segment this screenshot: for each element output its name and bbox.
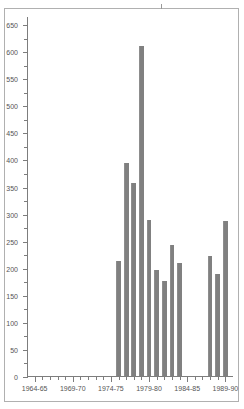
x-axis-minor-tick (141, 377, 142, 380)
x-axis-minor-tick (42, 377, 43, 380)
y-axis-minor-tick (24, 93, 28, 94)
x-axis-minor-tick (88, 377, 89, 380)
bar (124, 163, 129, 376)
y-axis-tick-label: 350 (6, 184, 18, 191)
x-axis-tick (35, 377, 36, 382)
x-axis-minor-tick (65, 377, 66, 380)
x-axis-minor-tick (126, 377, 127, 380)
y-axis-minor-tick (24, 120, 28, 121)
y-axis-minor-tick (24, 201, 28, 202)
chart-figure: 050100150200250300350400450500550600650 … (0, 0, 244, 409)
x-axis-tick-label: 1964-65 (22, 385, 48, 392)
y-axis-minor-tick (24, 336, 28, 337)
x-axis-minor-tick (96, 377, 97, 380)
y-axis-tick-label: 200 (6, 265, 18, 272)
x-axis-minor-tick (164, 377, 165, 380)
bar (177, 263, 182, 376)
y-axis-tick: 250 (23, 242, 28, 243)
top-edge-tick (161, 4, 162, 9)
x-axis-tick (111, 377, 112, 382)
y-axis-minor-tick (24, 147, 28, 148)
y-axis-tick-label: 500 (6, 103, 18, 110)
y-axis-tick: 450 (23, 133, 28, 134)
y-axis-tick: 550 (23, 79, 28, 80)
bar (131, 183, 136, 376)
y-axis-tick-label: 50 (10, 346, 18, 353)
y-axis-tick: 650 (23, 25, 28, 26)
x-axis-minor-tick (195, 377, 196, 380)
x-axis-minor-tick (202, 377, 203, 380)
x-axis-minor-tick (103, 377, 104, 380)
x-axis-tick-label: 1979-80 (136, 385, 162, 392)
x-axis-tick-label: 1974-75 (98, 385, 124, 392)
y-axis-tick: 600 (23, 52, 28, 53)
y-axis-tick: 150 (23, 296, 28, 297)
y-axis-tick: 350 (23, 188, 28, 189)
y-axis-minor-tick (24, 282, 28, 283)
y-axis-tick-label: 400 (6, 157, 18, 164)
y-axis-tick-label: 600 (6, 49, 18, 56)
bar (116, 261, 121, 376)
y-axis-tick: 100 (23, 323, 28, 324)
bar (223, 221, 228, 376)
y-axis-tick-label: 150 (6, 292, 18, 299)
y-axis-tick-label: 550 (6, 76, 18, 83)
y-axis-tick: 300 (23, 215, 28, 216)
bar (139, 46, 144, 376)
y-axis-tick-label: 450 (6, 130, 18, 137)
x-axis-tick-label: 1989-90 (213, 385, 239, 392)
bar (208, 256, 213, 376)
y-axis-minor-tick (24, 66, 28, 67)
bar (215, 274, 220, 376)
bar (154, 270, 159, 376)
y-axis-minor-tick (24, 309, 28, 310)
bar (170, 245, 175, 376)
x-axis-tick (73, 377, 74, 382)
x-axis-minor-tick (134, 377, 135, 380)
y-axis-tick: 200 (23, 269, 28, 270)
x-axis-tick (187, 377, 188, 382)
x-axis-minor-tick (58, 377, 59, 380)
x-axis-minor-tick (218, 377, 219, 380)
plot-area: 050100150200250300350400450500550600650 … (27, 17, 233, 377)
y-axis-minor-tick (24, 363, 28, 364)
x-axis-tick-label: 1984-85 (174, 385, 200, 392)
y-axis-tick: 400 (23, 160, 28, 161)
y-axis-tick: 500 (23, 106, 28, 107)
y-axis-minor-tick (24, 255, 28, 256)
x-axis-minor-tick (172, 377, 173, 380)
bar (162, 281, 167, 376)
x-axis-tick-label: 1969-70 (60, 385, 86, 392)
x-axis-minor-tick (157, 377, 158, 380)
y-axis-tick-label: 650 (6, 22, 18, 29)
y-axis-tick-label: 100 (6, 319, 18, 326)
x-axis-minor-tick (210, 377, 211, 380)
y-axis-minor-tick (24, 174, 28, 175)
x-axis-tick (225, 377, 226, 382)
y-axis-tick-label: 0 (14, 374, 18, 381)
x-axis-minor-tick (80, 377, 81, 380)
y-axis-tick: 50 (23, 350, 28, 351)
y-axis-tick-label: 300 (6, 211, 18, 218)
y-axis-minor-tick (24, 228, 28, 229)
x-axis-minor-tick (119, 377, 120, 380)
x-axis-minor-tick (180, 377, 181, 380)
bar (147, 220, 152, 376)
y-axis-minor-tick (24, 39, 28, 40)
x-axis-minor-tick (50, 377, 51, 380)
y-axis-tick-label: 250 (6, 238, 18, 245)
x-axis-tick (149, 377, 150, 382)
y-axis-tick: 0 (23, 377, 28, 378)
